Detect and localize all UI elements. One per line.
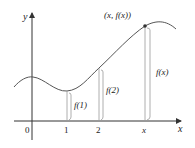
segment-label-fx: f(x) [156,67,169,77]
segment-label-f2: f(2) [106,85,119,95]
function-curve [14,22,176,91]
segment-label-f1: f(1) [74,100,87,110]
function-diagram: y x 0 1 2 x (x, f(x)) f(1) f(2) f(x) [0,0,195,148]
point-label: (x, f(x)) [104,10,131,20]
y-axis-label: y [22,11,28,22]
x-axis-label: x [177,123,183,134]
point-x-fx [143,24,147,28]
tick-label-1: 1 [64,125,69,135]
segment-fx [145,26,150,121]
segment-f2 [99,68,103,121]
origin-label: 0 [25,125,30,135]
tick-label-x: x [141,125,146,135]
segment-f1 [67,91,71,121]
tick-label-2: 2 [96,125,101,135]
